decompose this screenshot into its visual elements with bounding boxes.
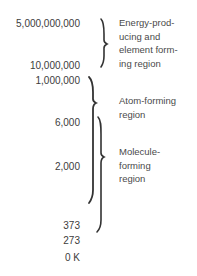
region-energy-line-1: Energy-prod- <box>119 16 197 30</box>
region-atom-line-2: region <box>119 108 197 122</box>
region-atom-line-1: Atom-forming <box>119 94 197 108</box>
region-molecule-forming: Molecule- forming region <box>119 145 197 186</box>
region-atom-forming: Atom-forming region <box>119 94 197 121</box>
region-energy-line-3: element form- <box>119 43 197 57</box>
region-molecule-line-2: forming <box>119 159 197 173</box>
region-molecule-line-1: Molecule- <box>119 145 197 159</box>
region-energy-line-2: ucing and <box>119 30 197 44</box>
brace-energy-region <box>101 19 107 67</box>
brace-atom-region <box>89 77 96 203</box>
region-energy-producing: Energy-prod- ucing and element form- ing… <box>119 16 197 70</box>
brace-molecule-region <box>97 117 104 232</box>
region-energy-line-4: ing region <box>119 57 197 71</box>
region-molecule-line-3: region <box>119 172 197 186</box>
